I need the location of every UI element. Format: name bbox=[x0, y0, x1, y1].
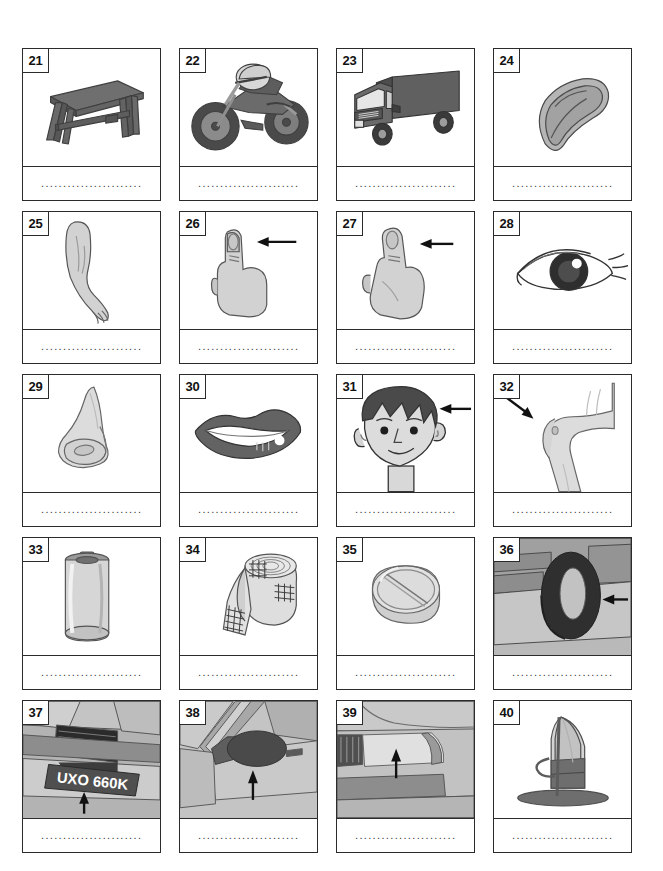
arrow-icon bbox=[440, 404, 472, 414]
answer-dots: ........................ bbox=[355, 342, 456, 351]
answer-dots: ........................ bbox=[41, 342, 142, 351]
picture-card[interactable]: 23 bbox=[336, 48, 475, 201]
card-number-badge: 24 bbox=[493, 48, 520, 73]
answer-line[interactable]: ........................ bbox=[23, 655, 160, 689]
picture-card[interactable]: 22 bbox=[179, 48, 318, 201]
arrow-icon bbox=[257, 237, 296, 247]
answer-dots: ........................ bbox=[41, 668, 142, 677]
answer-line[interactable]: ........................ bbox=[494, 655, 631, 689]
answer-line[interactable]: ........................ bbox=[337, 818, 474, 852]
answer-line[interactable]: ........................ bbox=[494, 166, 631, 200]
answer-line[interactable]: ........................ bbox=[337, 329, 474, 363]
card-number-badge: 34 bbox=[179, 537, 206, 562]
card-number-badge: 33 bbox=[22, 537, 49, 562]
picture-card[interactable]: 35 ........................ bbox=[336, 537, 475, 690]
answer-line[interactable]: ........................ bbox=[23, 166, 160, 200]
card-number-badge: 35 bbox=[336, 537, 363, 562]
card-number-badge: 32 bbox=[493, 374, 520, 399]
answer-dots: ........................ bbox=[512, 179, 613, 188]
picture-card[interactable]: 33 ........................ bbox=[22, 537, 161, 690]
answer-line[interactable]: ........................ bbox=[23, 818, 160, 852]
answer-dots: ........................ bbox=[198, 505, 299, 514]
answer-dots: ........................ bbox=[512, 342, 613, 351]
answer-line[interactable]: ........................ bbox=[494, 329, 631, 363]
answer-line[interactable]: ........................ bbox=[337, 166, 474, 200]
answer-dots: ........................ bbox=[198, 342, 299, 351]
answer-dots: ........................ bbox=[512, 668, 613, 677]
card-number-badge: 29 bbox=[22, 374, 49, 399]
answer-dots: ........................ bbox=[41, 831, 142, 840]
card-number-badge: 38 bbox=[179, 700, 206, 725]
answer-dots: ........................ bbox=[41, 179, 142, 188]
card-number-badge: 30 bbox=[179, 374, 206, 399]
card-number-badge: 27 bbox=[336, 211, 363, 236]
card-number-badge: 25 bbox=[22, 211, 49, 236]
picture-card[interactable]: 32 .. bbox=[493, 374, 632, 527]
card-number-badge: 26 bbox=[179, 211, 206, 236]
answer-dots: ........................ bbox=[198, 179, 299, 188]
answer-dots: ........................ bbox=[512, 831, 613, 840]
answer-line[interactable]: ........................ bbox=[180, 492, 317, 526]
arrow-icon bbox=[420, 239, 454, 249]
card-number-badge: 40 bbox=[493, 700, 520, 725]
answer-dots: ........................ bbox=[355, 505, 456, 514]
picture-card[interactable]: 39 bbox=[336, 700, 475, 853]
card-number-badge: 28 bbox=[493, 211, 520, 236]
answer-dots: ........................ bbox=[355, 179, 456, 188]
card-number-badge: 23 bbox=[336, 48, 363, 73]
picture-card[interactable]: 21 bbox=[22, 48, 161, 201]
picture-card[interactable]: 25 ........................ bbox=[22, 211, 161, 364]
answer-line[interactable]: ........................ bbox=[23, 329, 160, 363]
answer-dots: ........................ bbox=[512, 505, 613, 514]
answer-dots: ........................ bbox=[41, 505, 142, 514]
answer-line[interactable]: ........................ bbox=[337, 492, 474, 526]
answer-dots: ........................ bbox=[198, 668, 299, 677]
answer-dots: ........................ bbox=[198, 831, 299, 840]
answer-line[interactable]: ........................ bbox=[180, 818, 317, 852]
answer-line[interactable]: ........................ bbox=[23, 492, 160, 526]
picture-card[interactable]: 27 .. bbox=[336, 211, 475, 364]
answer-line[interactable]: ........................ bbox=[180, 655, 317, 689]
picture-card[interactable]: 24 ........................ bbox=[493, 48, 632, 201]
card-number-badge: 36 bbox=[493, 537, 520, 562]
answer-line[interactable]: ........................ bbox=[494, 492, 631, 526]
picture-card[interactable]: 29 ........................ bbox=[22, 374, 161, 527]
picture-card[interactable]: 36 bbox=[493, 537, 632, 690]
answer-line[interactable]: ........................ bbox=[337, 655, 474, 689]
picture-card[interactable]: 40 ........................ bbox=[493, 700, 632, 853]
card-number-badge: 21 bbox=[22, 48, 49, 73]
picture-card[interactable]: 37 bbox=[22, 700, 161, 853]
picture-card[interactable]: 28 bbox=[493, 211, 632, 364]
arrow-icon bbox=[506, 397, 534, 419]
worksheet-page: 21 bbox=[0, 0, 663, 871]
answer-dots: ........................ bbox=[355, 668, 456, 677]
picture-card[interactable]: 34 bbox=[179, 537, 318, 690]
answer-line[interactable]: ........................ bbox=[180, 166, 317, 200]
answer-dots: ........................ bbox=[355, 831, 456, 840]
answer-line[interactable]: ........................ bbox=[494, 818, 631, 852]
picture-card[interactable]: 30 ........................ bbox=[179, 374, 318, 527]
card-number-badge: 37 bbox=[22, 700, 49, 725]
card-number-badge: 39 bbox=[336, 700, 363, 725]
card-grid: 21 bbox=[22, 48, 632, 852]
picture-card[interactable]: 31 bbox=[336, 374, 475, 527]
picture-card[interactable]: 38 bbox=[179, 700, 318, 853]
answer-line[interactable]: ........................ bbox=[180, 329, 317, 363]
picture-card[interactable]: 26 .. bbox=[179, 211, 318, 364]
card-number-badge: 31 bbox=[336, 374, 363, 399]
card-number-badge: 22 bbox=[179, 48, 206, 73]
